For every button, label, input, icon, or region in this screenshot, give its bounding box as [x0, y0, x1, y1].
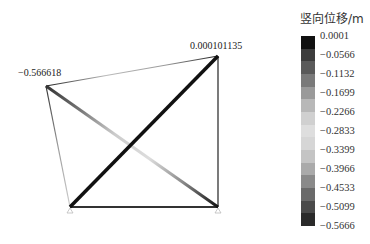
colorbar-segment	[301, 163, 315, 176]
member-left	[46, 86, 70, 207]
support-icon	[67, 208, 221, 213]
colorbar-tick-label: −0.3399	[320, 144, 355, 155]
member-diagonal-down	[46, 86, 218, 207]
colorbar-segment	[301, 49, 315, 62]
colorbar-tick-label: −0.0566	[320, 49, 355, 60]
colorbar-tick-label: −0.5099	[320, 201, 355, 212]
member-diagonal-up	[70, 56, 218, 207]
colorbar-tick-label: −0.2833	[320, 125, 355, 136]
colorbar-tick-label: −0.5666	[320, 220, 355, 231]
colorbar-tick-label: −0.1132	[320, 68, 354, 79]
colorbar-segment	[301, 175, 315, 188]
max-displacement-label: 0.000101135	[190, 40, 242, 51]
colorbar-segment	[301, 150, 315, 163]
colorbar-title: 竖向位移/m	[300, 9, 364, 26]
colorbar-segment	[301, 99, 315, 112]
colorbar-segment	[301, 61, 315, 74]
colorbar-segment	[301, 36, 315, 49]
colorbar-tick-label: −0.4533	[320, 182, 355, 193]
colorbar-segment	[301, 137, 315, 150]
colorbar-tick-label: −0.3966	[320, 163, 355, 174]
colorbar-segment	[301, 112, 315, 125]
colorbar	[301, 36, 315, 226]
colorbar-segment	[301, 201, 315, 214]
colorbar-segment	[301, 213, 315, 226]
truss-displacement-diagram	[0, 0, 300, 244]
colorbar-segment	[301, 74, 315, 87]
colorbar-tick-label: −0.2266	[320, 106, 355, 117]
colorbar-segment	[301, 125, 315, 138]
colorbar-tick-label: −0.1699	[320, 87, 355, 98]
colorbar-segment	[301, 87, 315, 100]
colorbar-tick-label: 0.0001	[320, 30, 349, 41]
min-displacement-label: −0.566618	[18, 67, 61, 78]
colorbar-segment	[301, 188, 315, 201]
